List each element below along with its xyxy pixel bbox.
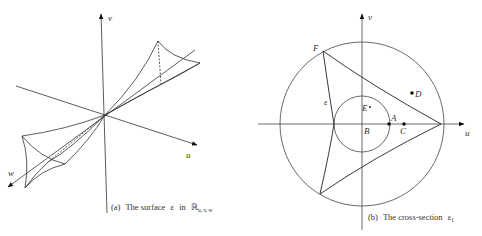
upper-cusp-lobe: [105, 41, 200, 115]
label-e: E: [361, 103, 368, 113]
point-d: [410, 91, 414, 95]
svg-text:(b) The cross-section: (b) The cross-section ε1: [368, 212, 454, 223]
curve-label: ε: [324, 97, 328, 107]
figure-canvas: v u w (a) The surface ε in ℝu, v, w v u …: [0, 0, 482, 236]
v-axis-label-b: v: [368, 12, 372, 22]
label-b: B: [364, 126, 370, 136]
point-e: [369, 106, 371, 108]
deltoid-curve: [320, 51, 441, 194]
v-axis-label-a: v: [108, 13, 112, 23]
panel-a-surface: [8, 14, 200, 213]
u-axis-label-a: u: [186, 150, 191, 160]
caption-b: (b) The cross-section ε1: [368, 212, 454, 223]
w-axis-label-a: w: [8, 168, 14, 178]
svg-text:(a) The surface ε: (a) The surface ε in ℝu, v, w: [111, 202, 213, 213]
caption-a: (a) The surface ε in ℝu, v, w: [111, 202, 213, 213]
lower-cusp-lobe: [22, 115, 105, 188]
label-f: F: [312, 43, 319, 53]
u-axis-label-b: u: [465, 128, 470, 138]
label-d: D: [414, 89, 422, 99]
label-a: A: [390, 113, 397, 123]
panel-b-cross-section: [258, 14, 464, 230]
u-axis: [16, 86, 197, 145]
label-c: C: [400, 126, 407, 136]
